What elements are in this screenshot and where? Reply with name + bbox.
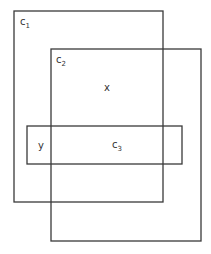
point-y-label: y: [38, 140, 44, 151]
set-c3-label: c3: [112, 139, 122, 153]
set-diagram: c1 c2 c3 x y: [0, 0, 211, 254]
set-c3-rect: [27, 126, 182, 164]
set-c1-label: c1: [20, 16, 30, 30]
set-c2-label: c2: [56, 54, 66, 68]
set-c2-rect: [51, 49, 201, 241]
point-x-label: x: [104, 82, 110, 93]
set-c1-rect: [14, 11, 163, 202]
